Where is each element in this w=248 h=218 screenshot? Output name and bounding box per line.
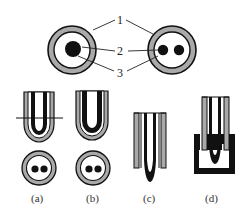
leader-1-left (93, 20, 115, 30)
variant-a-cross-section (22, 151, 56, 185)
core-dot-right (40, 165, 47, 172)
caption-c: (c) (143, 192, 156, 205)
variant-b-cross-section (76, 151, 110, 185)
conductor-tip (144, 113, 156, 182)
sheath-left (134, 113, 139, 168)
callout-label-1: 1 (117, 13, 123, 27)
inner-insulation (27, 156, 52, 181)
callout-label-3: 3 (117, 66, 123, 80)
sheath-right (161, 113, 166, 168)
core-dot-left (85, 165, 92, 172)
diagram-canvas: 1 2 3 (a) (b) (c) (0, 0, 248, 218)
caption-b: (b) (86, 192, 99, 205)
core-dot-left (31, 165, 38, 172)
core-dot (65, 41, 81, 57)
variant-c-longitudinal (134, 113, 166, 182)
core-dot-right (174, 45, 184, 55)
core-dot-right (94, 165, 101, 172)
sheath-left (202, 97, 207, 150)
variant-a-longitudinal (16, 92, 63, 142)
cross-section-single-core (48, 26, 96, 74)
variant-b-longitudinal (76, 91, 108, 140)
caption-a: (a) (31, 192, 44, 205)
core-dot-left (158, 45, 168, 55)
inner-insulation (81, 156, 106, 181)
caption-d: (d) (205, 192, 218, 205)
callout-label-2: 2 (117, 44, 123, 58)
variant-d-longitudinal (194, 97, 235, 174)
sheath-right (224, 97, 229, 150)
leader-1-right (126, 20, 153, 34)
